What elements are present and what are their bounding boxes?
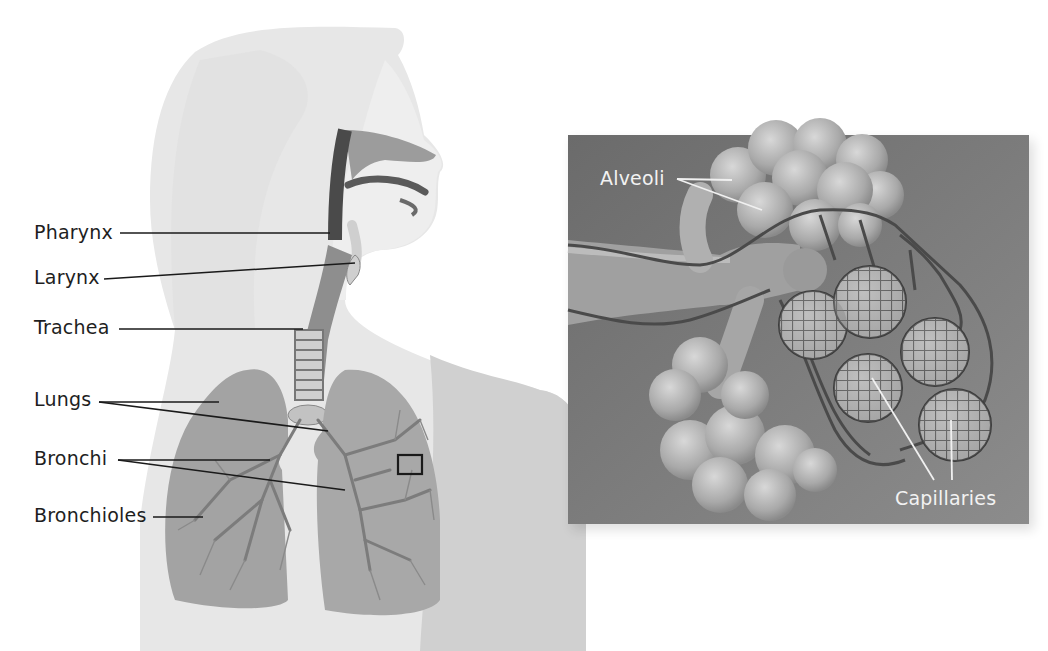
label-alveoli: Alveoli xyxy=(600,169,665,188)
label-bronchioles: Bronchioles xyxy=(34,506,147,525)
label-larynx: Larynx xyxy=(34,268,100,287)
label-bronchi: Bronchi xyxy=(34,449,107,468)
label-pharynx: Pharynx xyxy=(34,223,113,242)
label-trachea: Trachea xyxy=(34,318,110,337)
label-capillaries: Capillaries xyxy=(895,489,996,508)
respiratory-system-diagram: Pharynx Larynx Trachea Lungs Bronchi Bro… xyxy=(0,0,1048,651)
anatomy-illustration xyxy=(0,0,1048,651)
label-lungs: Lungs xyxy=(34,390,91,409)
